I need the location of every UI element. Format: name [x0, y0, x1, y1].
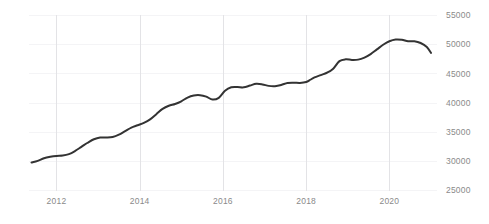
y-axis-tick-label: 45000: [446, 69, 471, 79]
x-axis-tick-label: 2018: [296, 196, 316, 206]
x-axis-tick-labels: 20122014201620182020: [47, 196, 400, 206]
line-chart: 25000300003500040000450005000055000 2012…: [0, 0, 489, 224]
y-axis-tick-label: 55000: [446, 10, 471, 20]
series-line: [32, 39, 432, 162]
y-axis-tick-label: 25000: [446, 185, 471, 195]
y-axis-tick-label: 30000: [446, 156, 471, 166]
x-axis-tick-label: 2016: [213, 196, 233, 206]
y-axis-tick-label: 40000: [446, 98, 471, 108]
y-axis-tick-label: 50000: [446, 39, 471, 49]
y-axis-tick-label: 35000: [446, 127, 471, 137]
x-axis-tick-label: 2012: [47, 196, 67, 206]
x-axis-tick-label: 2020: [380, 196, 400, 206]
horizontal-gridlines: [29, 16, 438, 191]
series-layer: [32, 39, 432, 162]
chart-canvas: 25000300003500040000450005000055000 2012…: [0, 0, 489, 224]
x-axis-tick-label: 2014: [130, 196, 150, 206]
y-axis-tick-labels: 25000300003500040000450005000055000: [446, 10, 471, 195]
